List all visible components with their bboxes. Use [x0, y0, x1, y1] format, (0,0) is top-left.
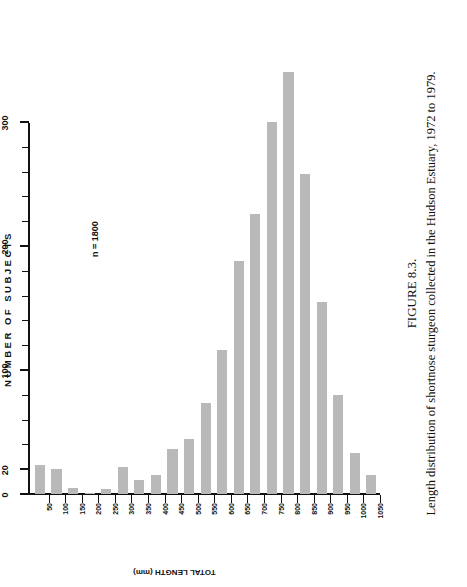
bar-chart-plot: 020100200300 501001502002503003504004505… — [32, 123, 380, 495]
category-tick-label: 350 — [145, 503, 152, 537]
bar — [167, 449, 177, 494]
category-tick — [115, 495, 116, 503]
category-tick — [148, 495, 149, 503]
value-tick — [22, 196, 29, 197]
value-tick — [20, 245, 29, 247]
value-tick-label: 0 — [0, 492, 10, 497]
category-tick — [49, 495, 50, 503]
category-tick-label: 700 — [261, 503, 268, 537]
value-tick — [22, 221, 29, 222]
category-tick — [314, 495, 315, 503]
category-tick-label: 50 — [45, 503, 52, 537]
category-tick-label: 550 — [211, 503, 218, 537]
bar — [151, 475, 161, 494]
bar — [300, 174, 310, 494]
bar — [366, 475, 376, 494]
bar — [250, 214, 260, 494]
value-tick — [22, 420, 29, 421]
category-tick — [165, 495, 166, 503]
category-tick — [231, 495, 232, 503]
category-tick — [247, 495, 248, 503]
category-tick — [82, 495, 83, 503]
value-tick-label: 300 — [0, 115, 10, 130]
figure-number: FIGURE 8.3. — [404, 0, 420, 587]
value-tick — [22, 444, 29, 445]
category-tick — [98, 495, 99, 503]
value-tick — [20, 468, 29, 470]
value-tick — [20, 493, 29, 495]
bar — [283, 72, 293, 494]
category-tick — [181, 495, 182, 503]
value-tick — [22, 320, 29, 321]
category-tick — [380, 495, 381, 503]
category-tick — [65, 495, 66, 503]
category-tick-label: 1000 — [360, 503, 367, 537]
category-tick-label: 400 — [161, 503, 168, 537]
bar — [184, 439, 194, 494]
bar — [350, 453, 360, 494]
bar — [101, 489, 111, 494]
figure-caption: Length distribution of shortnose sturgeo… — [424, 0, 439, 587]
category-axis-title-text: TOTAL LENGTH (mm) — [133, 568, 216, 577]
category-axis-title: TOTAL LENGTH (mm) — [0, 565, 348, 581]
bar — [217, 350, 227, 494]
figure-page: NUMBER OF SUBJECTS TOTAL LENGTH (mm) n =… — [0, 0, 467, 587]
category-tick-label: 900 — [327, 503, 334, 537]
value-tick — [22, 296, 29, 297]
value-axis-line — [28, 123, 30, 495]
category-tick — [264, 495, 265, 503]
category-tick-label: 950 — [343, 503, 350, 537]
bar — [51, 469, 61, 494]
category-tick — [198, 495, 199, 503]
category-tick-label: 100 — [62, 503, 69, 537]
bar — [201, 403, 211, 494]
category-tick — [131, 495, 132, 503]
value-tick — [22, 172, 29, 173]
category-tick-label: 200 — [95, 503, 102, 537]
value-axis-title: NUMBER OF SUBJECTS — [2, 123, 13, 495]
figure-body: NUMBER OF SUBJECTS TOTAL LENGTH (mm) n =… — [0, 0, 467, 587]
category-tick-label: 250 — [111, 503, 118, 537]
bar — [85, 493, 95, 494]
category-tick-label: 650 — [244, 503, 251, 537]
category-tick-label: 300 — [128, 503, 135, 537]
bar — [134, 480, 144, 494]
value-tick — [22, 147, 29, 148]
category-tick-label: 150 — [78, 503, 85, 537]
value-tick-label: 100 — [0, 363, 10, 378]
category-tick — [297, 495, 298, 503]
bar — [35, 465, 45, 494]
bar — [333, 395, 343, 494]
bar — [118, 467, 128, 494]
category-tick-label: 600 — [227, 503, 234, 537]
rotated-figure-wrapper: NUMBER OF SUBJECTS TOTAL LENGTH (mm) n =… — [0, 0, 467, 587]
category-tick — [214, 495, 215, 503]
bar — [68, 488, 78, 494]
category-tick-label: 800 — [294, 503, 301, 537]
bar — [234, 261, 244, 494]
category-tick — [330, 495, 331, 503]
value-tick — [22, 395, 29, 396]
bar — [267, 122, 277, 494]
value-tick-label: 20 — [0, 465, 10, 475]
category-tick-label: 750 — [277, 503, 284, 537]
category-tick-label: 450 — [178, 503, 185, 537]
category-tick — [281, 495, 282, 503]
bar — [317, 302, 327, 494]
category-tick-label: 1050 — [377, 503, 384, 537]
category-tick-label: 500 — [194, 503, 201, 537]
value-tick — [22, 271, 29, 272]
value-tick-label: 200 — [0, 239, 10, 254]
category-tick-label: 850 — [310, 503, 317, 537]
value-tick — [22, 345, 29, 346]
value-tick — [20, 121, 29, 123]
value-tick — [20, 369, 29, 371]
category-tick — [347, 495, 348, 503]
category-tick — [363, 495, 364, 503]
